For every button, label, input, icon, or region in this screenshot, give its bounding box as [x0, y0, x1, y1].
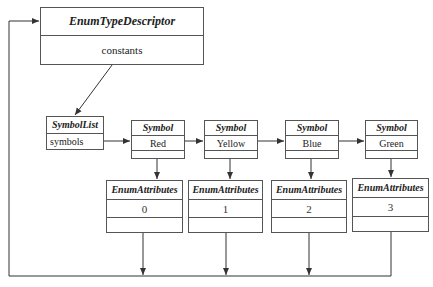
attributes-empty-row: [353, 216, 428, 231]
symbol-value: Green: [366, 135, 417, 150]
attributes-empty-row: [272, 217, 346, 232]
symbol-value: Red: [132, 135, 184, 150]
attributes-value: 2: [272, 199, 346, 217]
symbol-list-title: SymbolList: [47, 117, 103, 133]
enum-attributes-box-3: EnumAttributes 3: [352, 178, 429, 232]
attributes-title: EnumAttributes: [189, 181, 262, 199]
attributes-title: EnumAttributes: [272, 181, 346, 199]
enum-attributes-box-0: EnumAttributes 0: [106, 180, 183, 233]
symbol-empty-row: [366, 150, 417, 158]
symbol-title: Symbol: [366, 121, 417, 135]
enum-type-descriptor-box: EnumTypeDescriptor constants: [40, 7, 204, 65]
attributes-empty-row: [107, 217, 182, 232]
symbol-box-red: Symbol Red: [131, 120, 185, 159]
symbol-value: Blue: [286, 135, 338, 150]
enum-attributes-box-1: EnumAttributes 1: [188, 180, 263, 233]
attributes-value: 1: [189, 199, 262, 217]
symbol-box-blue: Symbol Blue: [285, 120, 339, 159]
attributes-title: EnumAttributes: [353, 179, 428, 197]
attributes-value: 3: [353, 197, 428, 216]
symbol-empty-row: [286, 150, 338, 158]
symbol-title: Symbol: [132, 121, 184, 135]
symbol-list-box: SymbolList symbols: [46, 116, 104, 150]
symbol-list-field-symbols: symbols: [47, 133, 103, 149]
symbol-empty-row: [132, 150, 184, 158]
descriptor-title: EnumTypeDescriptor: [41, 8, 203, 35]
symbol-box-green: Symbol Green: [365, 120, 418, 159]
attributes-value: 0: [107, 199, 182, 217]
symbol-value: Yellow: [205, 135, 257, 150]
attributes-empty-row: [189, 217, 262, 232]
symbol-title: Symbol: [205, 121, 257, 135]
symbol-box-yellow: Symbol Yellow: [204, 120, 258, 159]
symbol-empty-row: [205, 150, 257, 158]
enum-attributes-box-2: EnumAttributes 2: [271, 180, 347, 233]
symbol-title: Symbol: [286, 121, 338, 135]
descriptor-field-constants: constants: [41, 35, 203, 64]
attributes-title: EnumAttributes: [107, 181, 182, 199]
